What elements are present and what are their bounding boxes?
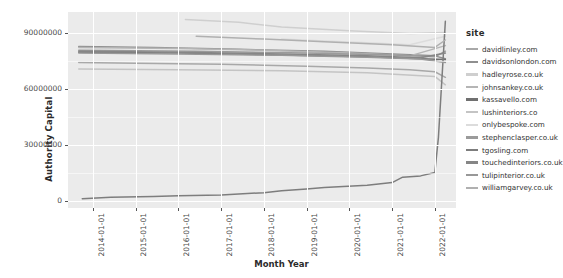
y-tick-label: 60000000 xyxy=(24,84,62,93)
legend-title: site xyxy=(466,28,562,38)
legend-items: davidlinley.comdavidsonlondon.comhadleyr… xyxy=(466,43,562,194)
legend-item-label: johnsankey.co.uk xyxy=(482,83,543,92)
legend-item-label: onlybespoke.com xyxy=(482,120,545,129)
legend-item-label: touchedinteriors.co.uk xyxy=(482,158,563,167)
x-tick-mark xyxy=(93,208,94,211)
gridline-horizontal-minor xyxy=(68,173,456,174)
gridline-vertical xyxy=(307,12,308,208)
x-tick-label: 2014-01-01 xyxy=(97,213,106,257)
legend-item[interactable]: tgosling.com xyxy=(466,144,562,157)
legend-item-label: tulipinterior.co.uk xyxy=(482,171,545,180)
legend-color-swatch xyxy=(466,161,478,163)
y-tick-label: 0 xyxy=(57,196,62,205)
legend-color-swatch xyxy=(466,98,478,100)
x-tick-mark xyxy=(221,208,222,211)
legend-item-label: tgosling.com xyxy=(482,146,528,155)
x-tick-label: 2016-01-01 xyxy=(182,213,191,257)
legend-color-swatch xyxy=(466,73,478,75)
x-tick-mark xyxy=(264,208,265,211)
legend-item[interactable]: davidsonlondon.com xyxy=(466,56,562,69)
legend-color-swatch xyxy=(466,136,478,138)
gridline-horizontal xyxy=(68,201,456,202)
plot-area xyxy=(68,12,456,208)
x-tick-mark xyxy=(136,208,137,211)
x-tick-label: 2018-01-01 xyxy=(267,213,276,257)
gridline-horizontal-minor xyxy=(68,61,456,62)
x-tick-label: 2022-01-01 xyxy=(438,213,447,257)
y-tick-mark xyxy=(65,201,68,202)
x-tick-mark xyxy=(435,208,436,211)
legend: site davidlinley.comdavidsonlondon.comha… xyxy=(466,28,562,194)
legend-item[interactable]: hadleyrose.co.uk xyxy=(466,68,562,81)
legend-item[interactable]: stephenclasper.co.uk xyxy=(466,131,562,144)
legend-color-swatch xyxy=(466,174,478,176)
y-tick-mark xyxy=(65,33,68,34)
legend-color-swatch xyxy=(466,187,478,189)
legend-color-swatch xyxy=(466,48,478,50)
legend-item[interactable]: lushinteriors.co xyxy=(466,106,562,119)
legend-item[interactable]: davidlinley.com xyxy=(466,43,562,56)
series-layer xyxy=(68,12,456,208)
gridline-vertical xyxy=(178,12,179,208)
y-tick-mark xyxy=(65,145,68,146)
x-tick-mark xyxy=(178,208,179,211)
gridline-vertical xyxy=(392,12,393,208)
x-tick-label: 2021-01-01 xyxy=(396,213,405,257)
series-line xyxy=(79,69,446,85)
gridline-vertical xyxy=(221,12,222,208)
x-tick-label: 2015-01-01 xyxy=(139,213,148,257)
legend-item[interactable]: tulipinterior.co.uk xyxy=(466,169,562,182)
legend-item-label: stephenclasper.co.uk xyxy=(482,133,558,142)
legend-item-label: davidsonlondon.com xyxy=(482,57,557,66)
legend-item-label: davidlinley.com xyxy=(482,45,538,54)
x-axis-title: Month Year xyxy=(0,259,563,269)
gridline-vertical xyxy=(264,12,265,208)
gridline-horizontal xyxy=(68,145,456,146)
y-tick-mark xyxy=(65,89,68,90)
legend-color-swatch xyxy=(466,124,478,126)
legend-item-label: lushinteriors.co xyxy=(482,108,537,117)
gridline-horizontal xyxy=(68,33,456,34)
x-tick-label: 2017-01-01 xyxy=(225,213,234,257)
gridline-vertical xyxy=(349,12,350,208)
legend-color-swatch xyxy=(466,111,478,113)
legend-item[interactable]: johnsankey.co.uk xyxy=(466,81,562,94)
legend-item[interactable]: onlybespoke.com xyxy=(466,119,562,132)
gridline-vertical xyxy=(435,12,436,208)
x-tick-label: 2019-01-01 xyxy=(310,213,319,257)
gridline-horizontal-minor xyxy=(68,117,456,118)
legend-color-swatch xyxy=(466,86,478,88)
y-tick-label: 90000000 xyxy=(24,28,62,37)
legend-color-swatch xyxy=(466,149,478,151)
line-chart: Authority Capital Month Year 03000000060… xyxy=(0,0,563,278)
gridline-horizontal xyxy=(68,89,456,90)
x-tick-mark xyxy=(349,208,350,211)
x-tick-mark xyxy=(307,208,308,211)
series-line xyxy=(185,19,445,33)
x-tick-label: 2020-01-01 xyxy=(353,213,362,257)
legend-item-label: williamgarvey.co.uk xyxy=(482,183,553,192)
series-line xyxy=(196,36,445,47)
legend-item-label: hadleyrose.co.uk xyxy=(482,70,543,79)
legend-color-swatch xyxy=(466,61,478,63)
legend-item-label: kassavello.com xyxy=(482,95,537,104)
y-tick-label: 30000000 xyxy=(24,140,62,149)
gridline-vertical xyxy=(136,12,137,208)
x-tick-mark xyxy=(392,208,393,211)
legend-item[interactable]: williamgarvey.co.uk xyxy=(466,182,562,195)
legend-item[interactable]: touchedinteriors.co.uk xyxy=(466,156,562,169)
legend-item[interactable]: kassavello.com xyxy=(466,93,562,106)
gridline-vertical xyxy=(93,12,94,208)
